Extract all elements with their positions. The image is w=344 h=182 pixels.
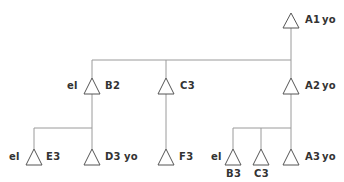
- node-label-e3: E3: [46, 151, 60, 163]
- node-label-a2: A2: [305, 80, 320, 92]
- node-label-c3-bottom: C3: [254, 168, 269, 180]
- triangle-node-a2: [283, 78, 299, 94]
- node-label-f3: F3: [179, 151, 193, 163]
- node-label-a3: A3: [305, 151, 320, 163]
- node-suffix-a2-yo: yo: [322, 80, 336, 92]
- node-prefix-b3-el: el: [211, 151, 222, 163]
- node-label-a1: A1: [305, 14, 320, 26]
- triangle-node-d3: [84, 149, 100, 165]
- triangle-node-b3: [225, 149, 241, 165]
- triangle-node-f3: [158, 149, 174, 165]
- triangle-node-c3-top: [158, 78, 174, 94]
- triangle-node-e3: [26, 149, 42, 165]
- node-prefix-e3-el: el: [9, 151, 20, 163]
- triangle-node-b2: [84, 78, 100, 94]
- triangle-node-c3-bottom: [253, 149, 269, 165]
- node-label-b2: B2: [105, 80, 120, 92]
- node-prefix-b2-el: el: [67, 80, 78, 92]
- node-label-b3: B3: [226, 168, 241, 180]
- triangle-node-a3: [283, 149, 299, 165]
- node-suffix-a3-yo: yo: [322, 151, 336, 163]
- node-label-d3: D3: [105, 151, 121, 163]
- node-suffix-a1-yo: yo: [322, 14, 336, 26]
- triangle-node-a1: [283, 13, 299, 28]
- node-label-c3-top: C3: [180, 80, 195, 92]
- node-suffix-d3-yo: yo: [124, 151, 138, 163]
